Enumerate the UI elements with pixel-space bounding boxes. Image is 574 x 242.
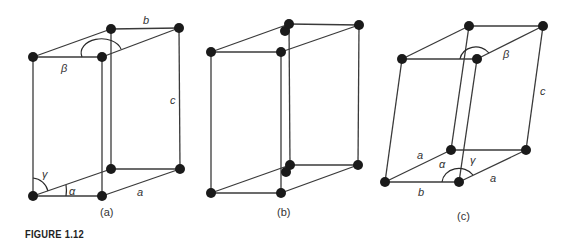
crystal-lattice-figure: b β c γ α a (a) (b) [0,0,574,242]
edge-label-c: c [170,94,176,106]
lattice-point [175,164,185,174]
edge-label-a-right: a [490,172,496,184]
lattice-point [97,191,107,201]
lattice-point [472,54,482,64]
angle-label-gamma: γ [42,168,49,180]
panel-label-c: (c) [457,210,470,222]
edge-label-a-left: a [417,149,423,161]
panel-label-a: (a) [100,206,113,218]
angle-label-beta: β [60,62,68,74]
panel-c-unit-cell: β c a α γ a b (c) [380,21,548,222]
angle-label-alpha: α [439,158,446,170]
lattice-point [28,52,38,62]
lattice-point [380,177,390,187]
lattice-point [276,188,286,198]
angle-label-beta: β [502,48,510,60]
lattice-point [106,164,116,174]
lattice-point [454,177,464,187]
lattice-point [353,160,363,170]
lattice-point [521,145,531,155]
edge-label-b: b [143,14,149,26]
lattice-point [276,47,286,57]
panel-label-b: (b) [277,206,290,218]
lattice-point [97,52,107,62]
figure-caption: FIGURE 1.12 [25,228,84,240]
panel-b-unit-cell: (b) [206,19,364,218]
lattice-point [464,21,474,31]
lattice-point [397,54,407,64]
lattice-point [206,188,216,198]
lattice-point [285,160,295,170]
lattice-point [354,20,364,30]
lattice-point [28,191,38,201]
lattice-point [174,23,184,33]
panel-a-unit-cell: b β c γ α a (a) [28,14,185,218]
lattice-point [446,145,456,155]
lattice-point [284,19,294,29]
lattice-point [206,47,216,57]
angle-label-gamma: γ [470,154,477,166]
edge-label-b: b [418,186,424,198]
lattice-point [106,24,116,34]
edge-label-a: a [137,186,143,198]
angle-label-alpha: α [69,185,76,197]
edge-label-c: c [540,85,546,97]
lattice-point [538,21,548,31]
